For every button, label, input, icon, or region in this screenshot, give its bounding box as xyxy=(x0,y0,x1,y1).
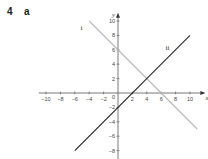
x-tick-label: −10 xyxy=(41,96,50,102)
x-tick-label: 2 xyxy=(131,96,134,102)
y-axis-arrow-icon xyxy=(116,13,120,18)
y-tick-label: 6 xyxy=(112,47,115,53)
y-tick-label: −4 xyxy=(109,119,115,125)
y-axis-label: y xyxy=(111,11,116,19)
line-i xyxy=(89,21,197,129)
x-tick-label: 8 xyxy=(174,96,177,102)
x-tick-label: 6 xyxy=(160,96,163,102)
x-tick-label: −6 xyxy=(72,96,78,102)
x-tick-label: −4 xyxy=(86,96,92,102)
y-tick-label: 4 xyxy=(112,61,115,67)
y-tick-label: 8 xyxy=(112,32,115,38)
y-tick-label: 2 xyxy=(112,76,115,82)
y-tick-label: −6 xyxy=(109,133,115,139)
x-tick-label: −8 xyxy=(57,96,63,102)
x-tick-label: 10 xyxy=(187,96,193,102)
coordinate-plot: −10−8−6−4−2246810108642−2−4−6−80xyiii xyxy=(0,0,208,159)
y-tick-label: −8 xyxy=(109,148,115,154)
x-tick-label: 4 xyxy=(145,96,148,102)
y-tick-label: −2 xyxy=(109,104,115,110)
y-tick-label: 10 xyxy=(109,18,115,24)
origin-label: 0 xyxy=(112,94,115,100)
x-tick-label: −2 xyxy=(100,96,106,102)
line-ii-label: ii xyxy=(166,44,170,52)
x-axis-label: x xyxy=(204,94,208,102)
line-i-label: i xyxy=(81,24,83,32)
